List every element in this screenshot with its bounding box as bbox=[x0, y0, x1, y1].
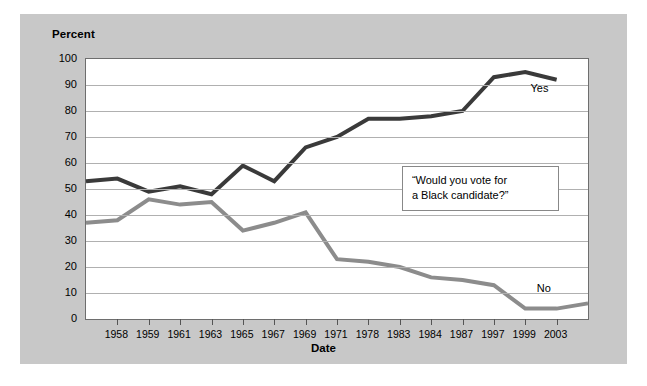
x-tick-mark bbox=[212, 319, 213, 325]
x-tick-mark bbox=[306, 319, 307, 325]
series-label-no: No bbox=[537, 282, 551, 294]
x-tick-label: 1978 bbox=[356, 328, 379, 340]
x-tick-mark bbox=[180, 319, 181, 325]
x-tick-mark bbox=[149, 319, 150, 325]
x-tick-mark bbox=[117, 319, 118, 325]
y-tick-label: 70 bbox=[43, 130, 77, 142]
y-tick-label: 90 bbox=[43, 78, 77, 90]
y-tick-label: 30 bbox=[43, 234, 77, 246]
x-tick-label: 1963 bbox=[199, 328, 222, 340]
chart-figure: Percent 01020304050607080901001958195919… bbox=[0, 0, 647, 386]
x-tick-label: 1958 bbox=[105, 328, 128, 340]
x-tick-mark bbox=[557, 319, 558, 325]
x-tick-mark bbox=[525, 319, 526, 325]
y-tick-label: 50 bbox=[43, 182, 77, 194]
y-tick-label: 20 bbox=[43, 260, 77, 272]
gridline bbox=[86, 215, 588, 216]
x-tick-label: 2003 bbox=[544, 328, 567, 340]
x-tick-mark bbox=[337, 319, 338, 325]
gridline bbox=[86, 137, 588, 138]
y-axis-title: Percent bbox=[52, 28, 95, 40]
gridline bbox=[86, 163, 588, 164]
gridline bbox=[86, 293, 588, 294]
gridline bbox=[86, 267, 588, 268]
annotation-callout: “Would you vote for a Black candidate?” bbox=[402, 166, 559, 211]
y-tick-label: 10 bbox=[43, 286, 77, 298]
x-tick-mark bbox=[400, 319, 401, 325]
x-tick-label: 1987 bbox=[450, 328, 473, 340]
y-tick-label: 40 bbox=[43, 208, 77, 220]
x-tick-label: 1983 bbox=[387, 328, 410, 340]
x-tick-label: 1967 bbox=[262, 328, 285, 340]
y-tick-label: 80 bbox=[43, 104, 77, 116]
x-tick-mark bbox=[243, 319, 244, 325]
x-axis-title: Date bbox=[0, 342, 647, 354]
x-tick-label: 1997 bbox=[481, 328, 504, 340]
x-tick-mark bbox=[463, 319, 464, 325]
x-tick-label: 1999 bbox=[513, 328, 536, 340]
gridline bbox=[86, 241, 588, 242]
x-tick-label: 1961 bbox=[167, 328, 190, 340]
gridline bbox=[86, 85, 588, 86]
x-tick-label: 1965 bbox=[230, 328, 253, 340]
x-tick-label: 1984 bbox=[418, 328, 441, 340]
x-tick-mark bbox=[494, 319, 495, 325]
x-tick-label: 1971 bbox=[324, 328, 347, 340]
y-tick-label: 60 bbox=[43, 156, 77, 168]
gridline bbox=[86, 111, 588, 112]
x-tick-label: 1969 bbox=[293, 328, 316, 340]
series-label-yes: Yes bbox=[531, 82, 549, 94]
annotation-line-1: “Would you vote for bbox=[412, 173, 549, 188]
x-tick-mark bbox=[368, 319, 369, 325]
y-tick-label: 0 bbox=[43, 312, 77, 324]
annotation-line-2: a Black candidate?” bbox=[412, 188, 549, 203]
x-tick-mark bbox=[431, 319, 432, 325]
x-tick-label: 1959 bbox=[136, 328, 159, 340]
x-tick-mark bbox=[274, 319, 275, 325]
y-tick-label: 100 bbox=[43, 52, 77, 64]
